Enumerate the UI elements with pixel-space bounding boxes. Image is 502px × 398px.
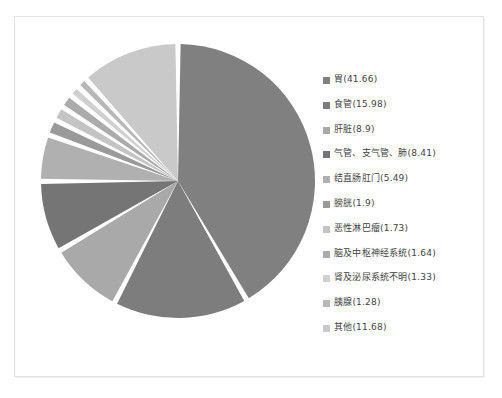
legend-item-label: 气管、支气管、肺(8.41) <box>334 147 436 160</box>
legend-item-label: 恶性淋巴瘤(1.73) <box>334 222 408 235</box>
legend-item-label: 膀胱(1.9) <box>334 197 375 210</box>
screenshot-root: 胃(41.66)食管(15.98)肝脏(8.9)气管、支气管、肺(8.41)结直… <box>0 0 502 398</box>
legend-item[interactable]: 脑及中枢神经系统(1.64) <box>323 247 483 272</box>
legend-item[interactable]: 膀胱(1.9) <box>323 197 483 222</box>
legend-swatch-icon <box>323 251 330 258</box>
legend-swatch-icon <box>323 300 330 307</box>
legend-swatch-icon <box>323 325 330 332</box>
legend-item-label: 其他(11.68) <box>334 321 387 334</box>
legend-item[interactable]: 结直肠肛门(5.49) <box>323 172 483 197</box>
legend-item[interactable]: 其他(11.68) <box>323 321 483 346</box>
legend-swatch-icon <box>323 77 330 84</box>
pie-slice-group <box>41 44 315 318</box>
legend-item-label: 食管(15.98) <box>334 98 387 111</box>
legend-item-label: 脑及中枢神经系统(1.64) <box>334 247 436 260</box>
legend-swatch-icon <box>323 127 330 134</box>
legend-swatch-icon <box>323 275 330 282</box>
legend-swatch-icon <box>323 226 330 233</box>
legend-swatch-icon <box>323 176 330 183</box>
legend-item[interactable]: 食管(15.98) <box>323 98 483 123</box>
legend-item[interactable]: 肾及泌尿系统不明(1.33) <box>323 271 483 296</box>
legend-item-label: 肝脏(8.9) <box>334 123 375 136</box>
legend-item-label: 胰腺(1.28) <box>334 296 381 309</box>
legend-item-label: 结直肠肛门(5.49) <box>334 172 408 185</box>
plot-area: 胃(41.66)食管(15.98)肝脏(8.9)气管、支气管、肺(8.41)结直… <box>15 17 485 378</box>
legend-item[interactable]: 恶性淋巴瘤(1.73) <box>323 222 483 247</box>
legend-item[interactable]: 胃(41.66) <box>323 73 483 98</box>
chart-frame: 胃(41.66)食管(15.98)肝脏(8.9)气管、支气管、肺(8.41)结直… <box>14 16 484 377</box>
legend-item[interactable]: 胰腺(1.28) <box>323 296 483 321</box>
legend-item-label: 肾及泌尿系统不明(1.33) <box>334 271 436 284</box>
legend-swatch-icon <box>323 201 330 208</box>
chart-legend: 胃(41.66)食管(15.98)肝脏(8.9)气管、支气管、肺(8.41)结直… <box>323 73 483 346</box>
legend-item[interactable]: 肝脏(8.9) <box>323 123 483 148</box>
legend-swatch-icon <box>323 102 330 109</box>
legend-item[interactable]: 气管、支气管、肺(8.41) <box>323 147 483 172</box>
legend-swatch-icon <box>323 151 330 158</box>
legend-item-label: 胃(41.66) <box>334 73 377 86</box>
pie-chart[interactable] <box>25 39 315 339</box>
